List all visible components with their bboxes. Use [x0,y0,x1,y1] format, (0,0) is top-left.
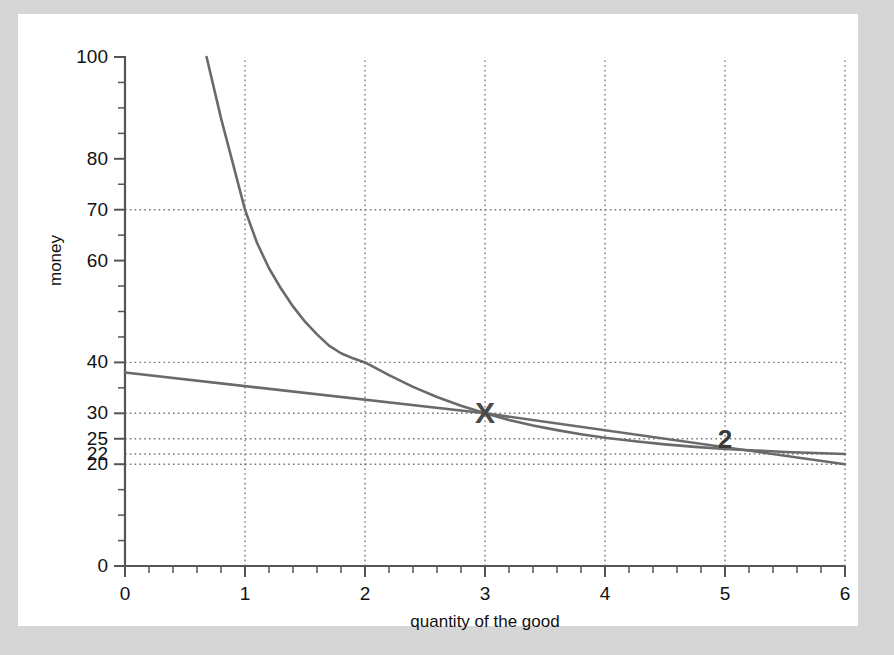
y-axis-tick-label: 25 [0,428,108,450]
y-axis-tick-label: 80 [0,148,108,170]
x-axis-tick-label: 5 [720,583,731,605]
intersection-marker: X [475,396,495,430]
y-axis-tick-label: 30 [0,402,108,424]
y-axis-tick-label: 70 [0,199,108,221]
x-axis-tick-label: 3 [480,583,491,605]
x-axis-title: quantity of the good [410,612,559,632]
x-axis-tick-label: 2 [360,583,371,605]
curve-label-2: 2 [718,423,732,454]
y-axis-tick-label: 40 [0,351,108,373]
x-axis-tick-label: 4 [600,583,611,605]
y-axis-tick-label: 0 [0,555,108,577]
x-axis-tick-label: 1 [240,583,251,605]
x-axis-tick-label: 0 [120,583,131,605]
chart-canvas [0,0,894,655]
y-axis-tick-label: 100 [0,46,108,68]
series-indifference-curve [207,57,845,454]
figure-background: money quantity of the good 0202225304060… [0,0,894,655]
y-axis-tick-label: 60 [0,250,108,272]
x-axis-tick-label: 6 [840,583,851,605]
